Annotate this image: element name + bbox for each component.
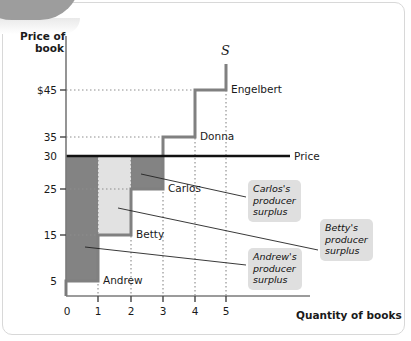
seller-label-carlos: Carlos bbox=[168, 182, 201, 194]
surplus-region-carlos bbox=[131, 156, 163, 189]
x-axis-title: Quantity of books bbox=[296, 309, 402, 321]
x-tick-label-5: 5 bbox=[221, 305, 231, 317]
y-tick-label-5: 5 bbox=[24, 275, 57, 287]
y-tick-label-45: $45 bbox=[24, 84, 57, 96]
y-axis-title-line1: Price of bbox=[20, 30, 64, 42]
surplus-region-andrew bbox=[66, 156, 98, 281]
y-tick-label-35: 35 bbox=[24, 131, 57, 143]
y-tick-label-30: 30 bbox=[24, 150, 57, 162]
y-tick-label-25: 25 bbox=[24, 183, 57, 195]
x-tick-label-4: 4 bbox=[190, 305, 200, 317]
seller-label-donna: Donna bbox=[200, 130, 234, 142]
y-axis-title-line2: book bbox=[20, 42, 64, 54]
callout-betty-line1: Betty's bbox=[325, 222, 368, 234]
callout-andrew-surplus: Andrew's producer surplus bbox=[248, 248, 302, 290]
y-tick-label-15: 15 bbox=[24, 229, 57, 241]
callout-carlos-surplus: Carlos's producer surplus bbox=[248, 180, 301, 222]
callout-carlos-line1: Carlos's bbox=[253, 183, 296, 195]
seller-label-engelbert: Engelbert bbox=[231, 83, 282, 95]
leader-line-andrew bbox=[85, 247, 246, 265]
callout-andrew-line1: Andrew's bbox=[253, 251, 297, 263]
x-tick-label-2: 2 bbox=[126, 305, 136, 317]
seller-label-betty: Betty bbox=[136, 228, 164, 240]
callout-betty-line2: producer bbox=[325, 234, 368, 246]
figure-panel: Price of book Quantity of books $45 35 3… bbox=[0, 0, 411, 341]
x-tick-label-1: 1 bbox=[93, 305, 103, 317]
callout-andrew-line3: surplus bbox=[253, 274, 297, 286]
supply-curve-label: S bbox=[221, 44, 230, 59]
callout-betty-surplus: Betty's producer surplus bbox=[320, 219, 373, 261]
seller-label-andrew: Andrew bbox=[103, 274, 143, 286]
callout-andrew-line2: producer bbox=[253, 263, 297, 275]
x-tick-label-0: 0 bbox=[62, 305, 72, 317]
callout-carlos-line3: surplus bbox=[253, 206, 296, 218]
surplus-region-betty bbox=[98, 156, 131, 235]
x-tick-label-3: 3 bbox=[158, 305, 168, 317]
callout-betty-line3: surplus bbox=[325, 245, 368, 257]
callout-carlos-line2: producer bbox=[253, 195, 296, 207]
price-line-label: Price bbox=[294, 150, 320, 162]
